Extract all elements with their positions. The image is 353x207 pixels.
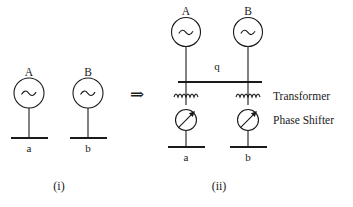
implies-arrow-icon: ⇒ <box>130 85 144 104</box>
panel-i: A a B b (i) <box>11 66 107 193</box>
power-system-diagram: A a B b (i) <box>0 0 353 207</box>
caption-panel-ii: (ii) <box>212 179 227 193</box>
branch-a <box>174 82 198 147</box>
generator-b-right-label: B <box>244 5 252 17</box>
legend-phase-shifter-label: Phase Shifter <box>273 114 334 126</box>
phase-shifter-b-icon[interactable] <box>238 110 259 131</box>
legend: Transformer Phase Shifter <box>273 90 334 126</box>
bus-q-label: q <box>214 60 220 72</box>
phase-shifter-a-icon[interactable] <box>176 110 197 131</box>
bus-a-right-label: a <box>184 151 189 163</box>
generator-b-left[interactable]: B <box>73 66 103 138</box>
bus-a-left[interactable]: a <box>11 138 48 154</box>
generator-a-right[interactable]: A <box>172 5 201 82</box>
bus-b-left[interactable]: b <box>70 138 107 154</box>
generator-a-right-label: A <box>182 5 191 17</box>
generator-b-left-label: B <box>84 66 92 78</box>
sine-wave-icon <box>179 30 193 34</box>
branch-b <box>236 82 260 147</box>
sine-wave-icon <box>81 91 96 95</box>
figure-root: A a B b (i) <box>0 0 353 207</box>
caption-panel-i: (i) <box>53 179 64 193</box>
bus-q[interactable]: q <box>178 60 262 82</box>
generator-a-left-label: A <box>25 66 34 78</box>
bus-a-left-label: a <box>27 142 32 154</box>
bus-a-right[interactable]: a <box>168 147 205 163</box>
bus-b-left-label: b <box>85 142 91 154</box>
sine-wave-icon <box>241 30 255 34</box>
legend-transformer-label: Transformer <box>273 90 330 102</box>
generator-b-right[interactable]: B <box>234 5 263 82</box>
bus-b-right[interactable]: b <box>230 147 267 163</box>
sine-wave-icon <box>22 91 37 95</box>
bus-b-right-label: b <box>245 151 251 163</box>
generator-a-left[interactable]: A <box>14 66 44 138</box>
panel-ii: A B q <box>168 5 334 193</box>
